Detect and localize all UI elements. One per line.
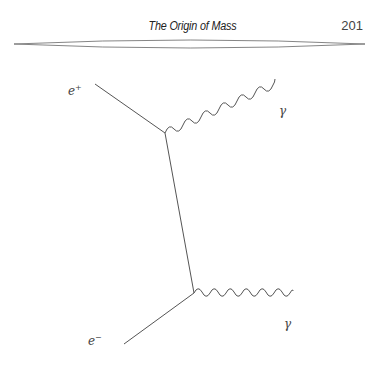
photon-top-label: γ (279, 104, 287, 118)
positron-line (95, 84, 165, 133)
photon-bottom-wavy-line (194, 289, 293, 297)
positron-label: e+ (68, 83, 82, 98)
electron-label: e− (88, 333, 102, 348)
propagator-line (165, 133, 194, 293)
photon-top-wavy-line (165, 79, 275, 133)
photon-bottom-label: γ (284, 317, 292, 331)
feynman-diagram: e+ e− γ γ (0, 0, 385, 367)
electron-line (124, 293, 194, 344)
